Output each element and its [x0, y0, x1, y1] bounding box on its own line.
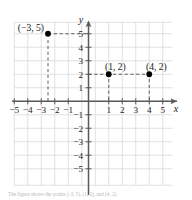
y-tick-label-neg1: −1: [73, 110, 83, 120]
x-tick-label-5: 5: [160, 105, 165, 115]
x-tick-label-neg2: −2: [50, 105, 60, 115]
y-tick-label-3: 3: [78, 56, 83, 66]
data-point-label-c: (4, 2): [146, 61, 167, 73]
data-point-label-a: (−3, 5): [18, 22, 44, 34]
x-tick-label-neg1: −1: [63, 105, 73, 115]
data-point-c[interactable]: [146, 71, 152, 77]
coordinate-plane-figure: x y −5 −4 −3 −2 −1 1 2 3 4 5: [0, 0, 192, 200]
x-tick-label-2: 2: [120, 105, 125, 115]
x-tick-label-4: 4: [147, 105, 152, 115]
x-tick-label-neg3: −3: [36, 105, 46, 115]
y-tick-label-neg3: −3: [73, 137, 83, 147]
figure-caption: The figure shows the points (-3, 5), (1,…: [8, 191, 184, 197]
x-tick-label-3: 3: [133, 105, 138, 115]
x-tick-labels: −5 −4 −3 −2 −1 1 2 3 4 5: [9, 105, 165, 115]
y-tick-label-neg4: −4: [73, 151, 83, 161]
x-tick-label-neg4: −4: [23, 105, 33, 115]
y-tick-label-4: 4: [78, 43, 83, 53]
x-tick-label-neg5: −5: [9, 105, 19, 115]
data-point-b[interactable]: [106, 71, 112, 77]
y-tick-label-neg2: −2: [73, 124, 83, 134]
data-point-label-b: (1, 2): [105, 61, 126, 73]
guide-lines: [48, 34, 149, 102]
y-tick-label-neg5: −5: [73, 164, 83, 174]
data-point-a[interactable]: [45, 31, 51, 37]
y-tick-label-2: 2: [78, 70, 83, 80]
y-axis-label: y: [78, 14, 84, 25]
x-tick-label-1: 1: [106, 105, 111, 115]
x-axis-label: x: [173, 103, 179, 114]
y-tick-label-1: 1: [78, 83, 83, 93]
